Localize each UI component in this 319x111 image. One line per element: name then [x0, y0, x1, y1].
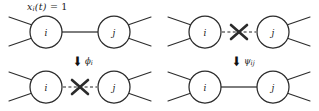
- state-label: xi(t) = 1: [27, 1, 68, 13]
- transition-label-psi: ψij: [244, 56, 255, 67]
- transition-arrow-phi: ⬇ ϕi: [72, 55, 93, 68]
- graph-transition-figure: i j xi(t) = 1 i j: [0, 0, 319, 111]
- state-equals: =: [50, 1, 58, 12]
- node-i-label: i: [204, 28, 207, 38]
- psi-subscript: ij: [251, 59, 255, 67]
- arrow-down-icon: ⬇: [73, 55, 82, 68]
- psi-symbol: ψ: [244, 56, 251, 66]
- panel-top-right: i j: [159, 0, 319, 56]
- node-i-label: i: [204, 83, 207, 93]
- state-time-argument: (t): [35, 1, 47, 12]
- transition-label-phi: ϕi: [85, 56, 93, 67]
- node-i-label: i: [45, 83, 48, 93]
- phi-subscript: i: [91, 59, 93, 67]
- arrow-down-icon: ⬇: [232, 55, 241, 68]
- panel-top-left: i j xi(t) = 1: [0, 0, 160, 56]
- transition-arrow-psi: ⬇ ψij: [231, 55, 255, 68]
- state-value: 1: [61, 1, 67, 12]
- node-i-label: i: [45, 28, 48, 38]
